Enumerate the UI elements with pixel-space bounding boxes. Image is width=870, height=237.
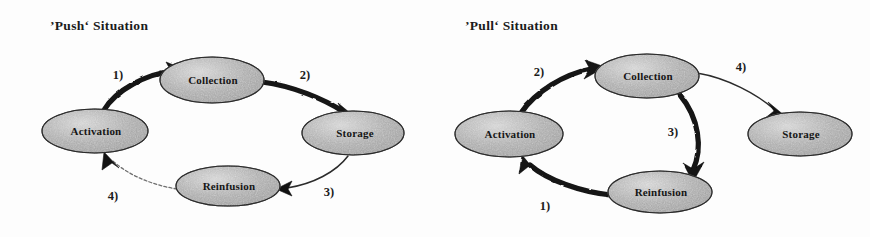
panel-push: ’Push‘ Situation [0, 0, 435, 237]
panel-pull: ’Pull‘ Situation [435, 0, 870, 237]
push-node-activation-label: Activation [71, 125, 122, 137]
push-edge-3 [276, 156, 348, 196]
figure-canvas: ’Push‘ Situation [0, 0, 870, 237]
push-node-reinfusion-label: Reinfusion [203, 180, 256, 192]
push-step-label-2: 2) [300, 68, 310, 82]
push-node-storage: Storage [302, 111, 404, 155]
pull-step-label-4: 4) [736, 60, 746, 74]
push-node-storage-label: Storage [336, 127, 373, 139]
pull-node-activation: Activation [455, 111, 563, 157]
pull-edge-1 [519, 155, 611, 195]
pull-node-storage-label: Storage [782, 128, 819, 140]
pull-edge-3 [680, 95, 704, 182]
push-edge-4 [102, 152, 177, 189]
pull-node-storage: Storage [748, 112, 852, 156]
push-nodes: Collection Storage Reinfusion Activation [42, 57, 404, 206]
pull-node-reinfusion-label: Reinfusion [635, 186, 688, 198]
push-cycle-diagram: Collection Storage Reinfusion Activation [0, 0, 435, 237]
pull-node-collection: Collection [595, 54, 699, 98]
push-node-activation: Activation [42, 109, 148, 153]
push-node-collection: Collection [160, 57, 264, 103]
pull-edge-4 [697, 73, 785, 119]
push-node-collection-label: Collection [188, 74, 238, 86]
push-node-reinfusion: Reinfusion [176, 166, 280, 206]
push-step-label-4: 4) [108, 189, 118, 203]
pull-node-activation-label: Activation [485, 128, 536, 140]
pull-nodes: Collection Storage Reinfusion Activation [455, 54, 852, 213]
pull-node-reinfusion: Reinfusion [608, 171, 712, 213]
push-step-label-1: 1) [113, 68, 123, 82]
pull-step-label-1: 1) [540, 199, 550, 213]
pull-cycle-diagram: Collection Storage Reinfusion Activation [435, 0, 870, 237]
push-step-label-3: 3) [324, 185, 334, 199]
pull-node-collection-label: Collection [623, 70, 673, 82]
pull-step-label-3: 3) [668, 125, 678, 139]
pull-step-label-2: 2) [534, 65, 544, 79]
